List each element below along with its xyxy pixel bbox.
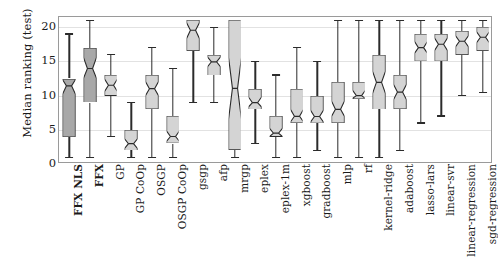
cap-upper [127, 102, 135, 103]
whisker-lower [69, 137, 70, 158]
y-axis-tick-label: 20 [34, 19, 56, 33]
y-axis-tick-label: 15 [34, 53, 56, 67]
box-plot-group [266, 17, 287, 162]
whisker-lower [399, 109, 400, 150]
box-notched [332, 82, 345, 123]
cap-upper [107, 54, 115, 55]
whisker-lower [151, 109, 152, 157]
cap-upper [272, 74, 280, 75]
box-plot-group [245, 17, 266, 162]
x-axis-tick-label: sgd-regression [486, 164, 498, 244]
x-axis-tick-label: kernel-ridge [382, 164, 394, 231]
box-plot-group [452, 17, 473, 162]
whisker-upper [110, 55, 111, 76]
box-plot-group [307, 17, 328, 162]
box-plot-group [100, 17, 121, 162]
whisker-upper [131, 103, 132, 130]
cap-lower [251, 143, 259, 144]
whisker-upper [482, 20, 483, 27]
whisker-upper [296, 48, 297, 89]
box-notched [311, 96, 324, 123]
whisker-upper [89, 20, 90, 47]
whisker-upper [461, 20, 462, 30]
box-plot-group [431, 17, 452, 162]
x-axis-tick-label: FFX [93, 164, 105, 187]
whisker-upper [69, 34, 70, 78]
x-axis-tick-label: rf [362, 164, 374, 173]
x-axis-tick-label: GP CoOp [134, 164, 146, 213]
cap-lower [375, 157, 383, 158]
cap-upper [355, 20, 363, 21]
whisker-upper [337, 20, 338, 82]
cap-upper [65, 33, 73, 34]
whisker-lower [172, 144, 173, 158]
whisker-upper [275, 75, 276, 116]
box-notched [228, 20, 241, 150]
x-axis-tick-label: linear-regression [465, 164, 477, 257]
cap-lower [189, 102, 197, 103]
cap-upper [169, 68, 177, 69]
x-axis-tick-label: GP [114, 164, 126, 180]
x-axis-tick-labels: FFX NLSFFXGPGP CoOpOSGPOSGP CoOpgsgpafpm… [58, 164, 492, 279]
x-axis-tick-label: gradboost [320, 164, 332, 219]
whisker-lower [296, 123, 297, 157]
whisker-lower [275, 137, 276, 158]
box-notched [373, 55, 386, 110]
cap-upper [458, 20, 466, 21]
box-plot-group [369, 17, 390, 162]
cap-lower [148, 157, 156, 158]
box-notched [84, 48, 97, 103]
box-notched [435, 34, 448, 61]
cap-lower [334, 157, 342, 158]
y-axis-tick-label: 5 [34, 122, 56, 136]
whisker-upper [255, 61, 256, 88]
x-axis-tick-label: FFX NLS [72, 164, 84, 216]
x-axis-tick-label: eplex-1m [279, 164, 291, 213]
x-axis-tick-label: mlp [341, 164, 353, 184]
box-plot-group [121, 17, 142, 162]
cap-upper [86, 20, 94, 21]
box-notched [476, 27, 489, 51]
y-axis-tick-label: 10 [34, 88, 56, 102]
x-axis-tick-label: linear-svr [444, 164, 456, 216]
cap-upper [313, 61, 321, 62]
x-axis-tick-label: gsgp [196, 164, 208, 190]
whisker-upper [317, 61, 318, 95]
cap-lower [65, 157, 73, 158]
box-plot-group [59, 17, 80, 162]
box-notched [166, 116, 179, 143]
cap-upper [334, 20, 342, 21]
cap-lower [355, 157, 363, 158]
box-plot-group [348, 17, 369, 162]
whisker-lower [255, 109, 256, 143]
cap-upper [437, 20, 445, 21]
whisker-upper [213, 27, 214, 54]
whisker-lower [358, 99, 359, 157]
box-plot-group [390, 17, 411, 162]
box-plot-group [142, 17, 163, 162]
cap-upper [293, 47, 301, 48]
cap-lower [313, 150, 321, 151]
x-axis-tick-label: adaboost [403, 164, 415, 213]
box-notched [290, 89, 303, 123]
cap-lower [458, 95, 466, 96]
cap-lower [396, 150, 404, 151]
cap-upper [210, 27, 218, 28]
box-notched [456, 31, 469, 55]
whisker-lower [110, 96, 111, 137]
cap-upper [479, 20, 487, 21]
cap-lower [107, 136, 115, 137]
box-notched [352, 82, 365, 99]
plot-inner [59, 17, 491, 162]
whisker-lower [441, 61, 442, 116]
x-axis-tick-label: xgboost [300, 164, 312, 206]
whisker-lower [420, 61, 421, 123]
cap-upper [251, 61, 259, 62]
x-axis-tick-label: mrgp [238, 164, 250, 193]
box-plot-group [472, 17, 493, 162]
whisker-lower [317, 123, 318, 150]
box-notched [146, 75, 159, 109]
cap-upper [396, 20, 404, 21]
whisker-lower [213, 75, 214, 102]
